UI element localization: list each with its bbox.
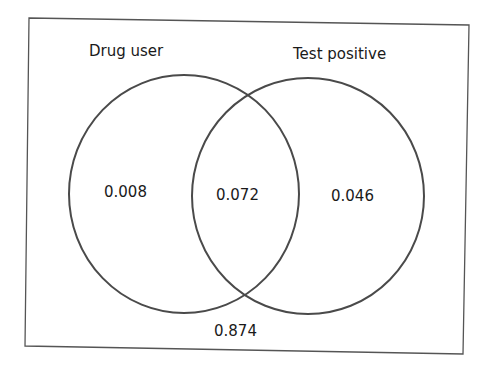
test-positive-label: Test positive (293, 45, 386, 63)
outside-value: 0.874 (214, 322, 257, 340)
intersection-value: 0.072 (216, 186, 259, 204)
test-positive-only-value: 0.046 (331, 187, 374, 205)
drug-user-label: Drug user (89, 42, 163, 60)
drug-user-only-value: 0.008 (104, 183, 147, 201)
